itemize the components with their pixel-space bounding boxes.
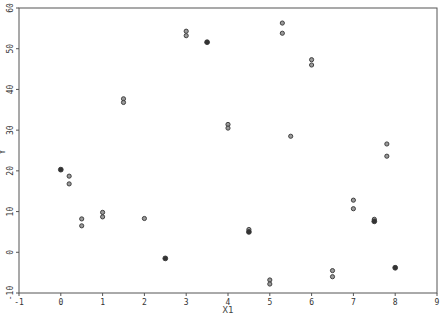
data-point <box>205 40 210 45</box>
x-tick-label: 6 <box>309 298 314 307</box>
data-point <box>310 58 314 62</box>
y-tick-label: 40 <box>6 84 15 94</box>
x-tick-label: 3 <box>184 298 189 307</box>
data-point <box>330 275 334 279</box>
data-point <box>226 126 230 130</box>
data-point <box>247 230 252 235</box>
data-point <box>268 278 272 282</box>
data-point <box>184 34 188 38</box>
data-point <box>372 219 377 224</box>
x-tick-label: 1 <box>100 298 105 307</box>
data-point <box>385 142 389 146</box>
x-tick-label: 5 <box>267 298 272 307</box>
data-point <box>289 134 293 138</box>
data-point <box>310 63 314 67</box>
y-tick-label: 50 <box>6 44 15 54</box>
x-tick-label: 7 <box>351 298 356 307</box>
data-point <box>280 31 284 35</box>
x-tick-label: 2 <box>142 298 147 307</box>
x-axis-label: X1 <box>223 305 234 315</box>
data-point <box>80 217 84 221</box>
data-point <box>121 100 125 104</box>
data-point <box>268 282 272 286</box>
data-point <box>330 269 334 273</box>
data-point <box>58 167 63 172</box>
data-point <box>67 174 71 178</box>
data-point <box>184 29 188 33</box>
data-points <box>58 21 397 286</box>
data-point <box>142 216 146 220</box>
y-tick-label: 10 <box>6 207 15 217</box>
x-tick-label: 0 <box>58 298 63 307</box>
scatter-plot: -10123456789 -100102030405060 X1 Y <box>0 0 443 318</box>
plot-frame <box>19 8 437 293</box>
y-axis-label: Y <box>0 149 7 155</box>
data-point <box>101 215 105 219</box>
x-tick-label: 8 <box>393 298 398 307</box>
x-tick-label: 9 <box>435 298 440 307</box>
y-axis: -100102030405060 <box>6 3 19 300</box>
y-tick-label: 30 <box>6 125 15 135</box>
data-point <box>80 224 84 228</box>
y-tick-label: 20 <box>6 166 15 176</box>
data-point <box>67 182 71 186</box>
y-tick-label: 0 <box>6 250 15 255</box>
y-tick-label: -10 <box>6 286 15 301</box>
data-point <box>393 265 398 270</box>
data-point <box>351 207 355 211</box>
y-tick-label: 60 <box>6 3 15 13</box>
data-point <box>280 21 284 25</box>
data-point <box>385 154 389 158</box>
data-point <box>163 256 168 261</box>
data-point <box>351 198 355 202</box>
data-point <box>101 210 105 214</box>
x-tick-label: -1 <box>14 298 24 307</box>
